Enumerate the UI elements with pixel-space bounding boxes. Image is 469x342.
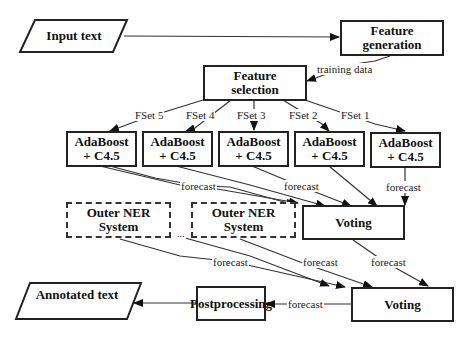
adaboost-line1: AdaBoost	[226, 135, 280, 149]
outer-ner-line1: Outer NER	[212, 206, 276, 220]
fset-1-label: FSet 1	[340, 109, 370, 121]
training-data-label: training data	[316, 63, 373, 75]
forecast-voting-label: forecast	[370, 256, 407, 268]
adaboost-line1: AdaBoost	[150, 135, 204, 149]
forecast-ner-left-label: forecast	[212, 256, 249, 268]
feature-generation-node: Feature generation	[340, 20, 444, 56]
postprocessing-node: Postprocessing	[196, 286, 266, 321]
ellipsis-label: ...	[176, 228, 186, 240]
outer-ner-node-1: Outer NER System	[66, 202, 171, 238]
fset-3-label: FSet 3	[236, 109, 266, 121]
adaboost-line2: + C4.5	[159, 149, 195, 163]
adaboost-node-5: AdaBoost + C4.5	[370, 132, 441, 168]
adaboost-line1: AdaBoost	[74, 135, 128, 149]
feature-generation-line1: Feature	[370, 24, 413, 38]
annotated-text-node: Annotated text	[22, 283, 132, 307]
postprocessing-label: Postprocessing	[190, 297, 272, 311]
forecast-post-label: forecast	[287, 298, 324, 310]
voting-node-2: Voting	[351, 287, 454, 322]
input-text-node: Input text	[24, 20, 124, 52]
adaboost-node-3: AdaBoost + C4.5	[218, 131, 289, 167]
outer-ner-line1: Outer NER	[87, 206, 151, 220]
fset-2-label: FSet 2	[288, 109, 318, 121]
feature-selection-line2: selection	[231, 83, 279, 97]
annotated-text-label: Annotated text	[36, 287, 119, 303]
adaboost-node-1: AdaBoost + C4.5	[66, 131, 137, 167]
outer-ner-node-2: Outer NER System	[191, 202, 296, 238]
voting-1-label: Voting	[335, 216, 371, 230]
input-text-label: Input text	[46, 28, 101, 44]
outer-ner-line2: System	[99, 220, 139, 234]
adaboost-line2: + C4.5	[83, 149, 119, 163]
fset-5-label: FSet 5	[134, 109, 164, 121]
forecast-ner-right-label: forecast	[302, 256, 339, 268]
forecast-ada-mid-label: forecast	[283, 180, 320, 192]
adaboost-line1: AdaBoost	[302, 135, 356, 149]
adaboost-node-4: AdaBoost + C4.5	[294, 131, 365, 167]
adaboost-line2: + C4.5	[311, 149, 347, 163]
feature-selection-node: Feature selection	[203, 65, 307, 101]
forecast-ada-left-label: forecast	[180, 180, 217, 192]
ner-pipeline-diagram: Input text Feature generation Feature se…	[0, 0, 469, 342]
forecast-ada-right-label: forecast	[385, 181, 422, 193]
adaboost-line1: AdaBoost	[378, 136, 432, 150]
fset-4-label: FSet 4	[185, 109, 215, 121]
adaboost-line2: + C4.5	[235, 149, 271, 163]
adaboost-line2: + C4.5	[387, 150, 423, 164]
feature-selection-line1: Feature	[233, 69, 276, 83]
adaboost-node-2: AdaBoost + C4.5	[142, 131, 213, 167]
voting-node-1: Voting	[302, 205, 405, 240]
voting-2-label: Voting	[384, 298, 420, 312]
feature-generation-line2: generation	[362, 38, 421, 52]
outer-ner-line2: System	[224, 220, 264, 234]
